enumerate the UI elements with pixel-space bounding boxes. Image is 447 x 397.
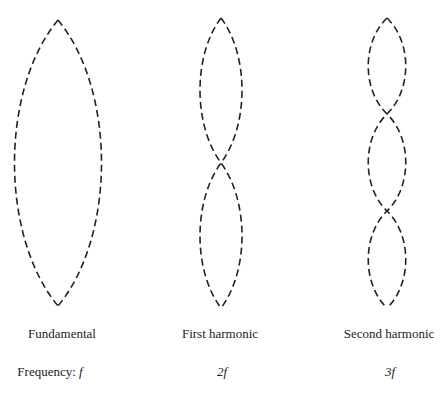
fundamental-label: Fundamental xyxy=(28,326,96,342)
second-harmonic-loops xyxy=(368,18,406,308)
frequency-value: f xyxy=(79,364,83,379)
frequency-prefix: Frequency: xyxy=(17,364,79,379)
first-harmonic-loops xyxy=(200,18,242,308)
fundamental-frequency: Frequency: f xyxy=(17,364,82,380)
second-harmonic-label: Second harmonic xyxy=(344,326,435,342)
fundamental-loop xyxy=(15,20,102,306)
first-harmonic-frequency: 2f xyxy=(217,364,227,380)
second-harmonic-frequency: 3f xyxy=(385,364,395,380)
first-harmonic-label: First harmonic xyxy=(182,326,258,342)
